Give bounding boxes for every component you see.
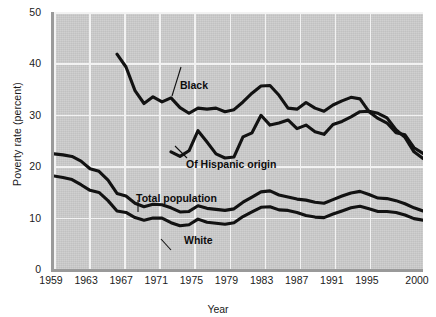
y-tick-label: 40 (1, 57, 41, 69)
x-tick-label: 1987 (285, 274, 308, 286)
x-tick-label: 1959 (39, 274, 62, 286)
annotation-hispanic: Of Hispanic origin (186, 158, 276, 170)
annotation-black: Black (180, 79, 208, 91)
x-tick-label: 1963 (74, 274, 97, 286)
x-axis-title: Year (0, 303, 436, 315)
y-tick-label: 50 (1, 6, 41, 18)
y-axis-ticks: 0 10 20 30 40 50 (0, 0, 46, 317)
x-tick-label: 1991 (320, 274, 343, 286)
x-tick-label: 2000 (405, 274, 428, 286)
y-tick-label: 20 (1, 160, 41, 172)
x-tick-label: 1979 (215, 274, 238, 286)
y-tick-label: 10 (1, 212, 41, 224)
poverty-rate-line-chart: Poverty rate (percent) 0 10 20 30 40 50 (0, 0, 436, 317)
x-tick-label: 1983 (250, 274, 273, 286)
annotation-leaders (54, 12, 423, 269)
x-tick-label: 1995 (355, 274, 378, 286)
y-tick-label: 0 (1, 263, 41, 275)
x-tick-label: 1971 (145, 274, 168, 286)
annotation-white: White (184, 234, 213, 246)
annotation-total: Total population (136, 192, 217, 204)
x-tick-label: 1975 (180, 274, 203, 286)
y-tick-label: 30 (1, 109, 41, 121)
plot-area (51, 12, 423, 272)
x-tick-label: 1967 (110, 274, 133, 286)
